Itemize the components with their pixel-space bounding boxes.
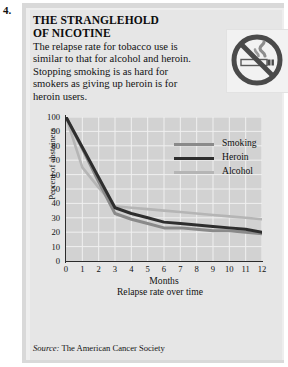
figure-content: THE STRANGLEHOLD OF NICOTINE The relapse… [30, 10, 282, 360]
y-axis-ticks: 0102030405060708090100 [38, 113, 60, 298]
x-tick-label: 0 [59, 264, 73, 274]
y-tick-label: 70 [38, 156, 60, 164]
y-tick-label: 80 [38, 142, 60, 150]
y-tick-label: 100 [38, 113, 60, 121]
exercise-panel-root: 4. THE STRANGLEHOLD OF NICOTINE The rela… [0, 0, 288, 367]
x-tick-label: 1 [75, 264, 89, 274]
page-title: THE STRANGLEHOLD OF NICOTINE [33, 14, 198, 39]
no-smoking-icon [226, 29, 288, 93]
relapse-rate-chart: Percent of abstainers 010203040506070809… [30, 113, 282, 298]
y-axis-line [65, 115, 66, 263]
y-tick-label: 20 [38, 228, 60, 236]
x-tick-label: 4 [124, 264, 138, 274]
question-number: 4. [3, 4, 11, 16]
chart-subtitle: Relapse rate over time [40, 286, 280, 297]
legend-label: Smoking [222, 137, 257, 148]
legend-label: Heroin [222, 151, 249, 162]
y-tick-label: 40 [38, 199, 60, 207]
legend-swatch-alcohol [174, 171, 214, 174]
legend-label: Alcohol [222, 165, 253, 176]
plot-area: SmokingHeroinAlcohol [66, 117, 262, 261]
x-axis-line [65, 261, 263, 262]
x-tick-label: 5 [141, 264, 155, 274]
x-tick-label: 7 [173, 264, 187, 274]
legend-swatch-smoking [174, 143, 214, 146]
description-text: The relapse rate for tobacco use is simi… [33, 41, 205, 103]
x-tick-label: 8 [190, 264, 204, 274]
page-title-line-2: OF NICOTINE [33, 27, 111, 39]
x-tick-label: 6 [157, 264, 171, 274]
x-tick-label: 11 [239, 264, 253, 274]
y-tick-label: 10 [38, 243, 60, 251]
legend-swatch-heroin [174, 157, 214, 160]
source-line: Source: The American Cancer Society [33, 343, 165, 353]
x-tick-label: 9 [206, 264, 220, 274]
source-text: The American Cancer Society [61, 343, 164, 353]
x-axis-label: Months [66, 275, 262, 286]
x-tick-label: 10 [222, 264, 236, 274]
y-tick-label: 60 [38, 171, 60, 179]
source-prefix: Source: [33, 343, 59, 353]
page-title-line-1: THE STRANGLEHOLD [33, 14, 159, 26]
y-tick-label: 90 [38, 127, 60, 135]
x-tick-label: 2 [92, 264, 106, 274]
y-tick-label: 0 [38, 257, 60, 265]
x-tick-label: 12 [255, 264, 269, 274]
x-tick-label: 3 [108, 264, 122, 274]
y-tick-label: 30 [38, 214, 60, 222]
y-tick-label: 50 [38, 185, 60, 193]
